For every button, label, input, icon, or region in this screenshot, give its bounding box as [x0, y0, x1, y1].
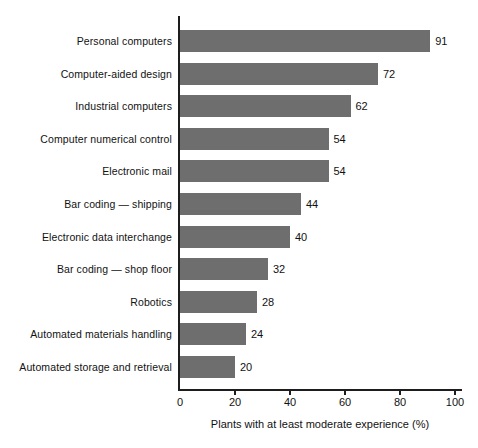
bar-row: Robotics28 — [0, 291, 478, 313]
bar-fill — [180, 128, 329, 150]
bar-value-label: 72 — [383, 63, 395, 85]
x-axis-tick-labels: 020406080100 — [0, 396, 478, 412]
bar-value-label: 54 — [334, 160, 346, 182]
bar — [180, 30, 430, 52]
bar-value-label: 40 — [295, 226, 307, 248]
category-label: Computer-aided design — [0, 63, 172, 85]
bar-fill — [180, 160, 329, 182]
category-label: Automated storage and retrieval — [0, 356, 172, 378]
x-axis-tick-label: 20 — [215, 396, 255, 408]
bar-row: Bar coding — shipping44 — [0, 193, 478, 215]
x-axis-tick-label: 100 — [435, 396, 475, 408]
x-axis-tick-label: 60 — [325, 396, 365, 408]
bar-value-label: 32 — [273, 258, 285, 280]
bar — [180, 226, 290, 248]
x-axis-tick — [234, 389, 236, 395]
bar — [180, 258, 268, 280]
bar — [180, 160, 329, 182]
bar — [180, 323, 246, 345]
x-axis-tick — [399, 389, 401, 395]
x-axis-tick-label: 40 — [270, 396, 310, 408]
bar-value-label: 20 — [240, 356, 252, 378]
bar-fill — [180, 95, 351, 117]
bar-value-label: 62 — [356, 95, 368, 117]
bar-row: Bar coding — shop floor32 — [0, 258, 478, 280]
bar-fill — [180, 63, 378, 85]
bar-row: Industrial computers62 — [0, 95, 478, 117]
bar-rows: Personal computers91Computer-aided desig… — [0, 0, 478, 390]
bar-fill — [180, 356, 235, 378]
bar-fill — [180, 226, 290, 248]
bar-fill — [180, 291, 257, 313]
bar-row: Computer numerical control54 — [0, 128, 478, 150]
bar-chart: Personal computers91Computer-aided desig… — [0, 0, 478, 448]
category-label: Computer numerical control — [0, 128, 172, 150]
bar-row: Personal computers91 — [0, 30, 478, 52]
bar-value-label: 28 — [262, 291, 274, 313]
bar-fill — [180, 258, 268, 280]
category-label: Personal computers — [0, 30, 172, 52]
bar — [180, 95, 351, 117]
bar — [180, 128, 329, 150]
bar-value-label: 44 — [306, 193, 318, 215]
x-axis-tick-label: 0 — [160, 396, 200, 408]
x-axis-tick — [454, 389, 456, 395]
category-label: Bar coding — shipping — [0, 193, 172, 215]
bar — [180, 291, 257, 313]
x-axis-tick — [344, 389, 346, 395]
bar-row: Automated storage and retrieval20 — [0, 356, 478, 378]
x-axis-tick — [289, 389, 291, 395]
bar-value-label: 91 — [435, 30, 447, 52]
bar — [180, 63, 378, 85]
bar — [180, 193, 301, 215]
bar-row: Electronic mail54 — [0, 160, 478, 182]
bar — [180, 356, 235, 378]
bar-row: Computer-aided design72 — [0, 63, 478, 85]
category-label: Automated materials handling — [0, 323, 172, 345]
category-label: Industrial computers — [0, 95, 172, 117]
x-axis-title: Plants with at least moderate experience… — [178, 418, 462, 430]
bar-value-label: 54 — [334, 128, 346, 150]
category-label: Electronic mail — [0, 160, 172, 182]
category-label: Robotics — [0, 291, 172, 313]
bar-row: Automated materials handling24 — [0, 323, 478, 345]
bar-row: Electronic data interchange40 — [0, 226, 478, 248]
bar-fill — [180, 30, 430, 52]
category-label: Electronic data interchange — [0, 226, 172, 248]
category-label: Bar coding — shop floor — [0, 258, 172, 280]
bar-value-label: 24 — [251, 323, 263, 345]
bar-fill — [180, 323, 246, 345]
x-axis-tick-label: 80 — [380, 396, 420, 408]
bar-fill — [180, 193, 301, 215]
